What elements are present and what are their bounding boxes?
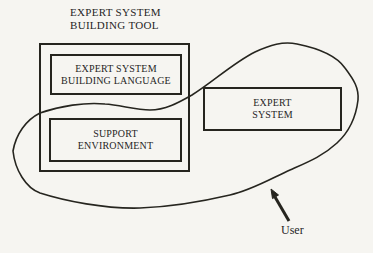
building-language-label-line2: BUILDING LANGUAGE bbox=[61, 75, 171, 87]
user-label: User bbox=[281, 223, 304, 237]
user-arrow-head bbox=[271, 189, 279, 199]
building-language-box: EXPERT SYSTEM BUILDING LANGUAGE bbox=[50, 54, 182, 95]
tool-title-line1: EXPERT SYSTEM bbox=[70, 6, 161, 19]
expert-system-label-line1: EXPERT bbox=[253, 97, 291, 109]
tool-title: EXPERT SYSTEM BUILDING TOOL bbox=[70, 6, 161, 32]
expert-system-diagram: EXPERT SYSTEM BUILDING TOOL EXPERT SYSTE… bbox=[0, 0, 373, 253]
expert-system-box: EXPERT SYSTEM bbox=[203, 87, 342, 131]
support-environment-box: SUPPORT ENVIRONMENT bbox=[49, 118, 182, 162]
expert-system-label-line2: SYSTEM bbox=[252, 109, 293, 121]
support-environment-label-line1: SUPPORT bbox=[93, 128, 138, 140]
building-language-label-line1: EXPERT SYSTEM bbox=[75, 63, 157, 75]
tool-title-line2: BUILDING TOOL bbox=[70, 19, 161, 32]
support-environment-label-line2: ENVIRONMENT bbox=[78, 140, 154, 152]
user-arrow-shaft bbox=[275, 197, 289, 221]
